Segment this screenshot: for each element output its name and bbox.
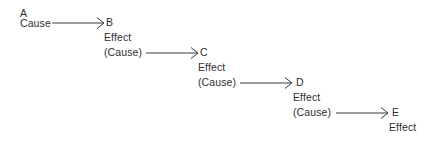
node-c-title: C (200, 47, 208, 58)
node-c-effect-label: Effect (198, 62, 225, 73)
arrow-b-to-c-icon (146, 44, 204, 62)
node-c-cause-label: (Cause) (198, 77, 236, 88)
node-a-cause-label: Cause (20, 18, 51, 29)
node-b-effect-label: Effect (104, 32, 131, 43)
arrow-c-to-d-icon (240, 74, 298, 92)
arrow-d-to-e-icon (336, 104, 394, 122)
node-e-title: E (392, 107, 399, 118)
node-b-cause-label: (Cause) (104, 47, 142, 58)
node-e-effect-label: Effect (389, 122, 416, 133)
node-d-cause-label: (Cause) (293, 107, 331, 118)
node-d-effect-label: Effect (293, 92, 320, 103)
arrow-a-to-b-icon (52, 14, 110, 32)
causal-chain-diagram: A Cause B Effect (Cause) C Effect (Cause… (0, 0, 447, 141)
node-d-title: D (296, 77, 304, 88)
node-b-title: B (106, 17, 113, 28)
